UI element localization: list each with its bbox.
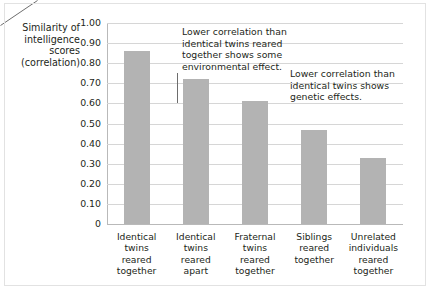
category-label-line: individuals: [342, 242, 404, 253]
category-label-line: Siblings: [283, 231, 345, 242]
y-axis-tick-label: 0.70: [80, 79, 101, 88]
category-label-line: twins: [165, 242, 227, 253]
category-label-line: Identical: [165, 231, 227, 242]
y-axis-tick-label: 0.80: [80, 58, 101, 67]
category-label-line: apart: [165, 265, 227, 276]
category-label-line: reared: [342, 254, 404, 265]
category-label-line: together: [106, 265, 168, 276]
y-axis-tick-label: 0: [95, 219, 101, 228]
gridline: [107, 23, 403, 24]
y-axis-tick-label: 0.30: [80, 159, 101, 168]
y-axis-tick-label: 0.90: [80, 38, 101, 47]
annotation-line: Lower correlation than: [290, 68, 410, 80]
x-axis-category-label: Identicaltwinsrearedapart: [165, 231, 227, 277]
y-axis-title-line: scores: [8, 45, 80, 57]
annotation-line: together shows some: [182, 49, 300, 61]
x-axis-category-label: Unrelatedindividualsrearedtogether: [342, 231, 404, 277]
annotation-line: identical twins shows: [290, 80, 410, 92]
bar: [124, 51, 150, 224]
category-label-line: together: [224, 265, 286, 276]
annotation-environmental-effect: Lower correlation than identical twins r…: [182, 26, 300, 72]
annotation-line: Lower correlation than: [182, 26, 300, 38]
annotation-line: identical twins reared: [182, 38, 300, 50]
annotation-leader-line-environmental: [177, 73, 178, 103]
x-axis-category-label: Identicaltwinsrearedtogether: [106, 231, 168, 277]
category-label-line: reared: [165, 254, 227, 265]
annotation-line: genetic effects.: [290, 91, 410, 103]
x-axis-line: [107, 224, 403, 225]
y-axis-tick-label: 0.50: [80, 119, 101, 128]
bar: [360, 158, 386, 224]
y-axis-title-line: Similarity of: [8, 22, 80, 34]
x-axis-category-label: Fraternaltwinsrearedtogether: [224, 231, 286, 277]
category-label-line: together: [283, 254, 345, 265]
category-label-line: Unrelated: [342, 231, 404, 242]
y-axis-tick-label: 0.40: [80, 139, 101, 148]
annotation-line: environmental effect.: [182, 61, 300, 73]
category-label-line: twins: [106, 242, 168, 253]
bar: [301, 130, 327, 224]
y-axis-title-line: intelligence: [8, 34, 80, 46]
y-axis-tick-label: 0.60: [80, 99, 101, 108]
x-axis-category-label: Siblingsrearedtogether: [283, 231, 345, 265]
bar: [242, 101, 268, 224]
annotation-genetic-effects: Lower correlation than identical twins s…: [290, 68, 410, 103]
category-label-line: together: [342, 265, 404, 276]
category-label-line: Fraternal: [224, 231, 286, 242]
y-axis-title: Similarity of intelligence scores (corre…: [8, 22, 80, 68]
y-axis-tick-label: 1.00: [80, 18, 101, 27]
y-axis-tick-label: 0.20: [80, 179, 101, 188]
category-label-line: twins: [224, 242, 286, 253]
bar: [183, 79, 209, 224]
y-axis-tick-label: 0.10: [80, 199, 101, 208]
category-label-line: reared: [224, 254, 286, 265]
category-label-line: Identical: [106, 231, 168, 242]
x-axis-category-labels: IdenticaltwinsrearedtogetherIdenticaltwi…: [107, 231, 403, 287]
y-axis-title-line: (correlation): [8, 57, 80, 69]
category-label-line: reared: [106, 254, 168, 265]
bar-chart-figure: Similarity of intelligence scores (corre…: [0, 0, 430, 293]
category-label-line: reared: [283, 242, 345, 253]
